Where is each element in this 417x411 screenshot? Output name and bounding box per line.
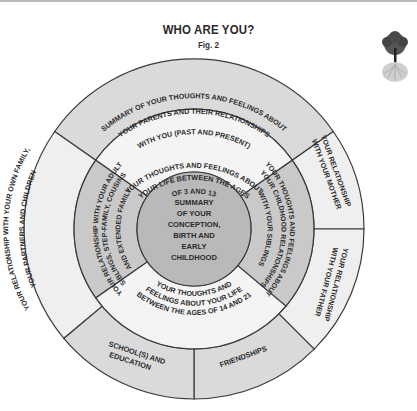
who-are-you-wheel: SUMMARY OF YOUR CONCEPTION, BIRTH AND EA… [0, 0, 417, 411]
svg-text:CHILDHOOD: CHILDHOOD [171, 253, 217, 262]
svg-text:EARLY: EARLY [181, 242, 206, 251]
svg-text:CONCEPTION,: CONCEPTION, [168, 220, 221, 229]
svg-text:SUMMARY: SUMMARY [175, 198, 214, 207]
svg-text:BIRTH AND: BIRTH AND [173, 231, 215, 240]
svg-text:OF YOUR: OF YOUR [177, 209, 212, 218]
